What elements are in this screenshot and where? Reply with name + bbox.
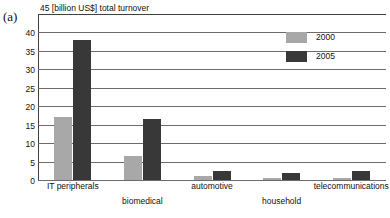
legend-swatch-2005: [286, 51, 307, 62]
category-label-4: telecommunications: [314, 182, 389, 191]
y-tick-label-35: 35: [26, 48, 35, 57]
y-tick-label-10: 10: [26, 140, 35, 149]
plot-area: 051015202530354045 45 [billion US$] tota…: [38, 14, 386, 180]
bar-group: [52, 14, 93, 180]
figure-label: (a): [3, 10, 17, 23]
category-label-1: biomedical: [122, 197, 163, 206]
bar-group: [192, 14, 233, 180]
category-label-2: automotive: [191, 182, 233, 191]
bar-2005-3: [282, 173, 300, 180]
category-label-0: IT peripherals: [47, 182, 99, 191]
figure-bar-chart: (a) 051015202530354045 45 [billion US$] …: [0, 0, 390, 218]
y-tick-label-20: 20: [26, 103, 35, 112]
legend-swatch-2000: [286, 32, 307, 43]
y-tick-label-25: 25: [26, 85, 35, 94]
bar-2005-0: [73, 40, 91, 180]
chart-legend: 20002005: [286, 30, 382, 68]
bar-2005-4: [352, 171, 370, 180]
y-tick-label-5: 5: [30, 158, 35, 167]
y-tick-label-0: 0: [30, 177, 35, 186]
legend-label-2005: 2005: [316, 52, 335, 61]
legend-item-2000: 2000: [286, 30, 382, 45]
chart-title: 45 [billion US$] total turnover: [40, 4, 149, 14]
bar-group: [122, 14, 163, 180]
legend-label-2000: 2000: [316, 33, 335, 42]
bar-2000-0: [54, 117, 72, 180]
y-tick-label-40: 40: [26, 29, 35, 38]
bar-2000-1: [124, 156, 142, 180]
bar-2005-2: [213, 171, 231, 180]
legend-item-2005: 2005: [286, 49, 382, 64]
category-axis-labels: IT peripheralsbiomedicalautomotivehouseh…: [38, 180, 386, 214]
y-tick-label-15: 15: [26, 121, 35, 130]
category-label-3: household: [262, 197, 301, 206]
y-tick-label-30: 30: [26, 66, 35, 75]
bar-2005-1: [143, 119, 161, 180]
